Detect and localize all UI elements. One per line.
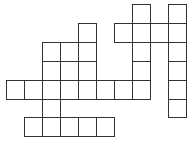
crossword-cell-r6-c2[interactable] xyxy=(42,117,61,137)
crossword-cell-r4-c5[interactable] xyxy=(96,80,115,100)
crossword-cell-r0-c7[interactable] xyxy=(132,4,151,24)
crossword-cell-r6-c5[interactable] xyxy=(96,117,115,137)
crossword-cell-r6-c1[interactable] xyxy=(24,117,43,137)
crossword-cell-r5-c9[interactable] xyxy=(168,99,187,118)
crossword-cell-r4-c4[interactable] xyxy=(78,80,97,100)
crossword-cell-r4-c9[interactable] xyxy=(168,80,187,100)
crossword-cell-r4-c1[interactable] xyxy=(24,80,43,100)
crossword-cell-r4-c3[interactable] xyxy=(60,80,79,100)
crossword-cell-r2-c9[interactable] xyxy=(168,42,187,62)
crossword-cell-r4-c7[interactable] xyxy=(132,80,151,100)
crossword-cell-r1-c7[interactable] xyxy=(132,23,151,43)
crossword-cell-r3-c2[interactable] xyxy=(42,61,61,81)
crossword-cell-r1-c8[interactable] xyxy=(150,23,169,43)
crossword-cell-r4-c0[interactable] xyxy=(6,80,25,100)
crossword-cell-r2-c4[interactable] xyxy=(78,42,97,62)
crossword-cell-r0-c9[interactable] xyxy=(168,4,187,24)
crossword-cell-r6-c3[interactable] xyxy=(60,117,79,137)
crossword-grid xyxy=(0,0,191,141)
crossword-cell-r1-c6[interactable] xyxy=(114,23,133,43)
crossword-cell-r4-c2[interactable] xyxy=(42,80,61,100)
crossword-cell-r4-c6[interactable] xyxy=(114,80,133,100)
crossword-cell-r1-c4[interactable] xyxy=(78,23,97,43)
crossword-cell-r2-c7[interactable] xyxy=(132,42,151,62)
crossword-cell-r3-c4[interactable] xyxy=(78,61,97,81)
crossword-cell-r2-c3[interactable] xyxy=(60,42,79,62)
crossword-cell-r2-c2[interactable] xyxy=(42,42,61,62)
crossword-cell-r6-c4[interactable] xyxy=(78,117,97,137)
crossword-cell-r3-c7[interactable] xyxy=(132,61,151,81)
crossword-cell-r3-c3[interactable] xyxy=(60,61,79,81)
crossword-cell-r1-c9[interactable] xyxy=(168,23,187,43)
crossword-cell-r3-c9[interactable] xyxy=(168,61,187,81)
crossword-cell-r5-c2[interactable] xyxy=(42,99,61,118)
